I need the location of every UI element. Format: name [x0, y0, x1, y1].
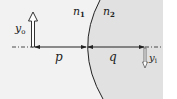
refraction-diagram: yo p q yi n1 n2: [0, 0, 177, 99]
image-distance-label: q: [109, 50, 117, 64]
medium-2-region: [88, 0, 163, 99]
object-distance-label: p: [55, 50, 63, 64]
